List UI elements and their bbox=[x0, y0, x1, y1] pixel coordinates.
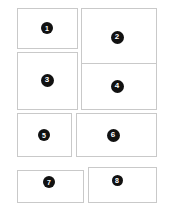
panel-number-badge-8: 8 bbox=[112, 175, 123, 186]
panel-number-badge-6: 6 bbox=[107, 129, 120, 142]
panel-number-badge-1: 1 bbox=[41, 22, 53, 34]
panel-8[interactable] bbox=[88, 167, 157, 203]
panel-number-badge-3: 3 bbox=[41, 74, 54, 87]
panel-number-badge-2: 2 bbox=[111, 31, 124, 44]
diagram-canvas: 12345678 bbox=[0, 0, 173, 211]
panel-number-badge-5: 5 bbox=[38, 129, 50, 141]
panel-number-badge-4: 4 bbox=[111, 80, 124, 93]
panel-number-badge-7: 7 bbox=[43, 176, 55, 188]
